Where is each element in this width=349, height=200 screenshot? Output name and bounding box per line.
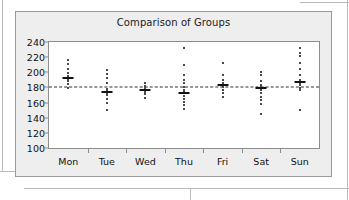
data-point: [183, 98, 185, 100]
data-point: [260, 71, 262, 73]
group-mean-marker-fri: [217, 84, 228, 86]
x-axis-tick-label-fri: Fri: [217, 156, 228, 167]
data-point: [106, 82, 108, 84]
data-point: [299, 68, 301, 70]
data-point: [67, 63, 69, 65]
data-point: [183, 74, 185, 76]
y-axis-tick-mark: [44, 42, 49, 43]
data-point: [260, 99, 262, 101]
data-point: [222, 89, 224, 91]
page-rule-bottom-horizontal: [24, 188, 349, 189]
group-mean-marker-sun: [294, 81, 305, 83]
data-point: [299, 89, 301, 91]
data-point: [144, 97, 146, 99]
group-mean-marker-wed: [140, 89, 151, 91]
x-axis-tick-label-sat: Sat: [253, 156, 269, 167]
y-axis-tick-label: 140: [27, 112, 45, 123]
data-point: [67, 59, 69, 61]
x-axis-tick-mark: [242, 148, 243, 153]
data-point: [260, 89, 262, 91]
chart-title: Comparison of Groups: [16, 17, 331, 28]
data-point: [299, 84, 301, 86]
data-point: [222, 92, 224, 94]
data-point: [144, 82, 146, 84]
y-axis-tick-label: 120: [27, 127, 45, 138]
data-point: [106, 109, 108, 111]
y-axis-tick-mark: [44, 132, 49, 133]
data-point: [67, 68, 69, 70]
x-axis-tick-mark: [203, 148, 204, 153]
data-point: [106, 98, 108, 100]
y-axis-tick-label: 200: [27, 67, 45, 78]
data-point: [299, 74, 301, 76]
data-point: [299, 47, 301, 49]
data-point: [183, 79, 185, 81]
data-point: [222, 96, 224, 98]
x-axis-tick-mark: [126, 148, 127, 153]
data-point: [260, 80, 262, 82]
page-rule-left-vertical: [2, 0, 3, 172]
data-point: [106, 94, 108, 96]
data-point: [183, 101, 185, 103]
y-axis-tick-mark: [44, 102, 49, 103]
x-axis-tick-label-mon: Mon: [58, 156, 78, 167]
y-axis-tick-mark: [44, 72, 49, 73]
x-axis-tick-label-sun: Sun: [291, 156, 309, 167]
y-axis-tick-label: 220: [27, 52, 45, 63]
page-background: Comparison of Groups 1001201401601802002…: [0, 0, 349, 200]
data-point: [106, 69, 108, 71]
data-point: [260, 74, 262, 76]
data-point: [260, 113, 262, 115]
data-point: [67, 87, 69, 89]
group-mean-marker-tue: [101, 91, 112, 93]
data-point: [67, 80, 69, 82]
x-axis-tick-label-wed: Wed: [135, 156, 156, 167]
data-point: [260, 103, 262, 105]
data-point: [183, 104, 185, 106]
page-rule-top-horizontal: [300, 2, 349, 3]
x-axis-tick-mark: [165, 148, 166, 153]
data-point: [106, 77, 108, 79]
data-point: [67, 72, 69, 74]
data-point: [183, 47, 185, 49]
data-point: [183, 86, 185, 88]
page-rule-right-vertical: [347, 0, 348, 200]
y-axis-tick-mark: [44, 57, 49, 58]
chart-figure: Comparison of Groups 1001201401601802002…: [15, 11, 332, 177]
x-axis-tick-label-thu: Thu: [175, 156, 193, 167]
x-axis-tick-mark: [88, 148, 89, 153]
x-axis-tick-mark: [280, 148, 281, 153]
y-axis-tick-label: 180: [27, 82, 45, 93]
plot-area: 100120140160180200220240 MonTueWedThuFri…: [48, 41, 320, 149]
group-mean-marker-mon: [63, 77, 74, 79]
data-point: [260, 96, 262, 98]
data-point: [260, 92, 262, 94]
data-point: [183, 64, 185, 66]
group-mean-marker-thu: [179, 92, 190, 94]
group-mean-marker-sat: [256, 87, 267, 89]
data-point: [299, 62, 301, 64]
y-axis-tick-label: 100: [27, 143, 45, 154]
data-point: [222, 74, 224, 76]
data-point: [299, 52, 301, 54]
page-rule-bottom-divider: [190, 188, 191, 200]
y-axis-tick-label: 240: [27, 37, 45, 48]
data-point: [183, 82, 185, 84]
data-point: [106, 73, 108, 75]
data-point: [106, 102, 108, 104]
data-point: [299, 109, 301, 111]
data-point: [222, 79, 224, 81]
y-axis-tick-mark: [44, 117, 49, 118]
data-point: [183, 95, 185, 97]
y-axis-tick-label: 160: [27, 97, 45, 108]
data-point: [222, 62, 224, 64]
data-point: [144, 93, 146, 95]
data-point: [183, 108, 185, 110]
data-point: [299, 55, 301, 57]
x-axis-tick-label-tue: Tue: [99, 156, 115, 167]
y-axis-tick-mark: [44, 148, 49, 149]
data-point: [67, 83, 69, 85]
